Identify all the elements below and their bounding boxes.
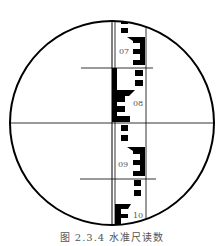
staff-e-mark-09 bbox=[127, 147, 145, 176]
staff-label-09: 09 bbox=[118, 160, 128, 169]
staff-label-08: 08 bbox=[133, 99, 143, 108]
staff-e-mark-07 bbox=[127, 37, 145, 65]
leveling-staff bbox=[112, 0, 146, 228]
staff-label-07: 07 bbox=[119, 47, 129, 56]
staff-label-10: 10 bbox=[133, 211, 143, 220]
staff-e-mark-08 bbox=[112, 68, 135, 122]
telescope-field-of-view: 07 08 09 10 bbox=[0, 0, 224, 228]
figure-caption: 图 2.3.4 水准尺读数 bbox=[0, 229, 224, 244]
